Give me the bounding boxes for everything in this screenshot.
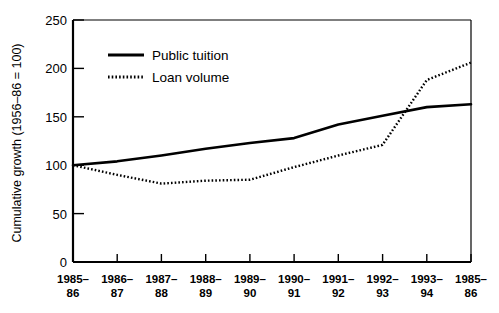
y-tick-label: 50 <box>53 207 67 222</box>
chart-figure: 250 200 150 100 50 0 Cumulative growth (… <box>0 0 499 313</box>
x-tick-label-top: 1989– <box>234 273 267 285</box>
y-tick-label: 150 <box>45 110 67 125</box>
legend-label-public-tuition: Public tuition <box>152 48 229 63</box>
x-tick-label-top: 1991– <box>322 273 355 285</box>
x-tick-label-bottom: 92 <box>332 287 345 299</box>
x-tick-label-bottom: 88 <box>155 287 168 299</box>
x-tick-label-bottom: 93 <box>376 287 389 299</box>
x-tick-label-bottom: 91 <box>288 287 301 299</box>
y-tick-label: 0 <box>60 255 67 270</box>
line-chart: 250 200 150 100 50 0 Cumulative growth (… <box>0 0 499 313</box>
x-tick-label-bottom: 86 <box>67 287 80 299</box>
x-tick-label-top: 1988– <box>190 273 223 285</box>
y-tick-label: 200 <box>45 61 67 76</box>
x-tick-label-top: 1992– <box>367 273 400 285</box>
chart-background <box>0 0 499 313</box>
x-tick-label-bottom: 87 <box>111 287 124 299</box>
x-tick-label-top: 1985– <box>455 273 488 285</box>
y-tick-label: 250 <box>45 13 67 28</box>
y-tick-label: 100 <box>45 158 67 173</box>
x-tick-label-top: 1993– <box>411 273 444 285</box>
x-tick-label-bottom: 89 <box>199 287 212 299</box>
x-tick-label-top: 1990– <box>278 273 311 285</box>
x-tick-label-bottom: 94 <box>420 287 433 299</box>
x-tick-label-bottom: 90 <box>244 287 257 299</box>
y-axis-title: Cumulative growth (1956–86 = 100) <box>10 43 24 242</box>
x-tick-label-top: 1987– <box>145 273 178 285</box>
legend-label-loan-volume: Loan volume <box>152 70 229 85</box>
x-tick-label-top: 1986– <box>101 273 134 285</box>
x-tick-label-top: 1985– <box>57 273 90 285</box>
x-tick-label-bottom: 86 <box>465 287 478 299</box>
